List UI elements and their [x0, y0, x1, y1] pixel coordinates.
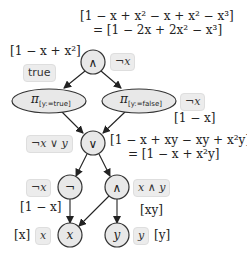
svg-text:∧: ∧	[89, 56, 98, 70]
or-tag: ¬x ∨ y	[26, 135, 73, 153]
x-tag: x	[35, 227, 51, 245]
svg-text:x: x	[67, 228, 74, 242]
svg-text:¬: ¬	[65, 181, 75, 195]
svg-text:∧: ∧	[113, 181, 122, 195]
node-proj-false[interactable]: π [y:=false]	[102, 89, 176, 113]
y-poly: [y]	[154, 229, 170, 242]
top-poly-line2: = [1 − 2x + 2x² − x³]	[93, 24, 222, 37]
svg-text:y: y	[113, 228, 121, 242]
and-low-tag: x ∧ y	[133, 179, 170, 197]
x-poly: [x]	[14, 229, 30, 242]
node-y[interactable]: y	[105, 223, 129, 247]
dag-canvas: ∧ π [y:=true] π [y:=false] ∨ ¬ ∧ x y	[0, 0, 247, 262]
edge-proj-true-to-or	[62, 112, 83, 133]
svg-text:[y:=false]: [y:=false]	[128, 100, 162, 108]
proj-false-poly: [1 − x]	[174, 112, 215, 125]
or-poly-line1: [1 − x + xy − xy + x²y]	[110, 134, 247, 147]
and-low-poly: [xy]	[140, 204, 163, 217]
top-poly-line1: [1 − x + x² − x + x² − x³]	[80, 10, 234, 23]
node-or[interactable]: ∨	[81, 131, 105, 155]
edge-and-to-proj-false	[101, 71, 121, 88]
true-tag: true	[23, 64, 56, 82]
node-and-top[interactable]: ∧	[81, 50, 105, 74]
not-poly: [1 − x]	[20, 201, 61, 214]
svg-text:∨: ∨	[89, 137, 98, 151]
edge-or-to-and	[99, 154, 110, 176]
or-poly-line2: = [1 − x + x²y]	[128, 148, 219, 161]
not-tag: ¬x	[26, 179, 51, 197]
svg-text:[y:=true]: [y:=true]	[39, 100, 71, 108]
edge-and-to-x	[79, 196, 109, 226]
edge-proj-false-to-or	[103, 112, 125, 133]
y-tag: y	[133, 227, 149, 245]
node-not[interactable]: ¬	[58, 175, 82, 199]
node-and-low[interactable]: ∧	[105, 175, 129, 199]
node-x[interactable]: x	[58, 223, 82, 247]
and-top-tag: ¬x	[110, 53, 135, 71]
node-proj-true[interactable]: π [y:=true]	[12, 89, 86, 113]
proj-false-tag: ¬x	[180, 93, 205, 111]
edge-or-to-not	[76, 154, 87, 176]
edge-and-to-proj-true	[64, 71, 85, 88]
top-left-poly: [1 − x + x²]	[10, 45, 81, 58]
